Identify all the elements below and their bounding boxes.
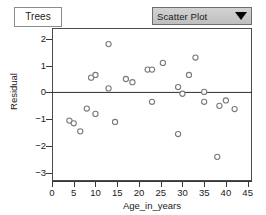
data-point[interactable] (84, 106, 89, 111)
data-point[interactable] (93, 111, 98, 116)
y-axis-title: Residual (8, 57, 19, 127)
data-point[interactable] (78, 129, 83, 134)
data-point[interactable] (106, 42, 111, 47)
data-point[interactable] (193, 55, 198, 60)
y-axis-tick-label: −2 (30, 141, 46, 151)
x-axis-tick-label: 10 (83, 188, 107, 198)
y-axis-tick-mark (46, 146, 52, 147)
y-axis-tick-mark (46, 39, 52, 40)
x-axis-tick-label: 20 (127, 188, 151, 198)
data-point[interactable] (202, 99, 207, 104)
y-axis-tick-label: −3 (30, 168, 46, 178)
y-axis-tick-mark (46, 66, 52, 67)
data-point[interactable] (123, 76, 128, 81)
y-axis-tick-label: 1 (30, 61, 46, 71)
data-point[interactable] (186, 72, 191, 77)
data-point[interactable] (175, 131, 180, 136)
data-point[interactable] (217, 103, 222, 108)
data-point[interactable] (160, 60, 165, 65)
y-axis-tick-label: 0 (30, 87, 46, 97)
data-point[interactable] (232, 106, 237, 111)
x-axis-title: Age_in_years (52, 200, 252, 211)
data-point[interactable] (149, 99, 154, 104)
data-point[interactable] (223, 98, 228, 103)
x-axis-tick-label: 40 (214, 188, 238, 198)
data-point[interactable] (149, 67, 154, 72)
x-axis-tick-labels: 051015202530354045 (0, 188, 266, 200)
data-point[interactable] (130, 80, 135, 85)
x-axis-tick-label: 0 (40, 188, 64, 198)
data-point[interactable] (215, 154, 220, 159)
x-axis-tick-label: 25 (149, 188, 173, 198)
x-axis-tick-label: 5 (62, 188, 86, 198)
x-axis-tick-label: 30 (170, 188, 194, 198)
y-axis-tick-mark (46, 92, 52, 93)
data-point[interactable] (202, 89, 207, 94)
data-point[interactable] (175, 84, 180, 89)
y-axis-tick-label: −1 (30, 114, 46, 124)
scatter-plot-chart: 210−1−2−3 Residual 051015202530354045 Ag… (0, 0, 266, 215)
data-point[interactable] (112, 119, 117, 124)
y-axis-tick-label: 2 (30, 34, 46, 44)
y-axis-tick-mark (46, 119, 52, 120)
data-point[interactable] (106, 86, 111, 91)
x-axis-tick-label: 45 (236, 188, 260, 198)
y-axis-tick-mark (46, 173, 52, 174)
x-axis-tick-label: 15 (105, 188, 129, 198)
x-axis-tick-label: 35 (192, 188, 216, 198)
data-point[interactable] (180, 91, 185, 96)
plot-svg (52, 28, 252, 181)
plot-canvas (52, 28, 252, 181)
data-point[interactable] (93, 72, 98, 77)
data-point[interactable] (71, 121, 76, 126)
